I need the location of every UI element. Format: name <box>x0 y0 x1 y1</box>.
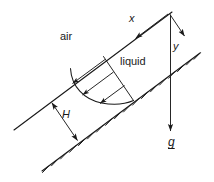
diagram-canvas <box>0 0 214 182</box>
y-axis-arrow <box>170 15 185 37</box>
inclined-film-flow-diagram: air liquid x y H g <box>0 0 214 182</box>
label-air: air <box>60 31 72 42</box>
label-film-thickness: H <box>62 109 70 120</box>
label-gravity: g <box>168 136 175 148</box>
label-liquid: liquid <box>120 56 146 67</box>
label-y-axis: y <box>173 41 179 52</box>
velocity-vector-arrows <box>73 60 125 104</box>
x-axis-arrow <box>136 14 169 39</box>
free-surface-line <box>14 12 172 130</box>
label-x-axis: x <box>129 13 135 24</box>
